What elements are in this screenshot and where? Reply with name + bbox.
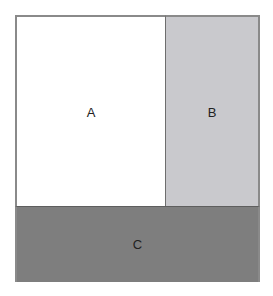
region-a: A <box>15 15 166 207</box>
region-c-label: C <box>133 237 142 252</box>
region-a-label: A <box>87 105 96 120</box>
region-c: C <box>15 206 260 282</box>
region-b-label: B <box>208 105 217 120</box>
partition-diagram: A B C <box>15 15 260 282</box>
region-b: B <box>166 15 260 207</box>
